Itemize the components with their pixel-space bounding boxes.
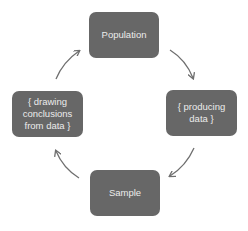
arrow-drawing-to-population — [56, 51, 79, 79]
node-population-label: Population — [102, 29, 147, 41]
node-producing-data-label: { producing data } — [178, 101, 226, 125]
node-drawing-conclusions: { drawing conclusions from data } — [12, 91, 83, 137]
arrow-population-to-producing — [170, 50, 193, 78]
arrow-producing-to-sample — [170, 148, 194, 176]
arrow-sample-to-drawing — [56, 151, 79, 178]
node-drawing-conclusions-label: { drawing conclusions from data } — [23, 96, 73, 132]
node-sample-label: Sample — [109, 187, 141, 199]
node-producing-data: { producing data } — [166, 90, 237, 136]
node-population: Population — [89, 12, 159, 58]
node-sample: Sample — [90, 170, 160, 216]
